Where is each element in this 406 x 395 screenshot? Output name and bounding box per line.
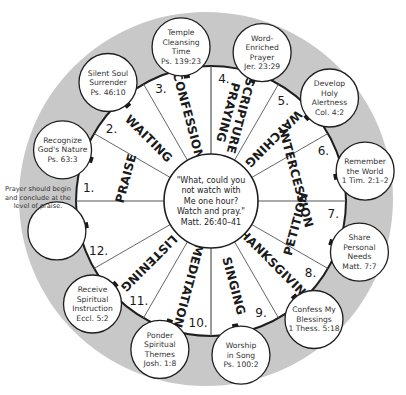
bubble-text: Enriched [245, 43, 279, 52]
bubble-10: PonderSpiritualThemesJosh. 1:8 [131, 320, 189, 378]
bubble-text: Share [348, 233, 370, 242]
bubble-text: in Song [227, 351, 256, 360]
center-quote-line: Matt. 26:40–41 [181, 218, 241, 227]
bubble-text: the World [347, 167, 384, 176]
segment-number: 10. [189, 316, 208, 330]
bubble-5: DevelopHolyAlertnessCol. 4:2 [300, 69, 358, 127]
segment-number: 4. [218, 72, 229, 86]
bubble-9: Worshipin SongPs. 100:2 [212, 326, 270, 384]
bubble-11: ReceiveSpiritualInstructionEccl. 5:2 [64, 275, 122, 333]
bubble-text: Alertness [312, 98, 348, 107]
bubble-text: Prayer [250, 53, 275, 62]
bubble-4: Word-EnrichedPrayerJer. 23:29 [233, 24, 291, 82]
bubble-2: Silent SoulSurrenderPs. 46:10 [79, 54, 137, 112]
bubble-text: Cleansing [162, 38, 199, 47]
segment-number: 1. [83, 181, 94, 195]
bubble-text: Personal [343, 243, 375, 252]
bubble-text: Ps. 139:23 [161, 57, 201, 66]
bubble-text: Josh. 1:8 [143, 359, 177, 368]
segment-number: 7. [328, 207, 339, 221]
bubble-text: Develop [314, 79, 345, 88]
bubble-text: Receive [78, 285, 108, 294]
bubble-text: Remember [344, 157, 387, 166]
center-quote-line: Watch and pray." [177, 207, 245, 216]
bubble-text: Instruction [72, 304, 113, 313]
segment-number: 6. [318, 144, 329, 158]
bubble-text: Blessings [296, 315, 332, 324]
bubble-1: RecognizeGod's NaturePs. 63:3 [34, 121, 92, 179]
bubble-text: Col. 4:2 [315, 108, 344, 117]
bubble-text: Surrender [89, 78, 128, 87]
bubble-text: Worship [226, 341, 257, 350]
bubble-text: Needs [348, 252, 372, 261]
bubble-text: Confess My [292, 305, 336, 314]
note-line: Prayer should begin [5, 185, 71, 193]
bubble-12 [28, 202, 86, 260]
bubble-7: SharePersonalNeedsMatt. 7:7 [330, 223, 388, 281]
segment-number: 9. [255, 306, 266, 320]
prayer-wheel-diagram: PRAISEWAITINGCONFESSIONSCRIPTUREPRAYINGW… [0, 0, 406, 395]
bubble-text: Spiritual [77, 295, 109, 304]
bubble-text: God's Nature [38, 145, 88, 154]
note-line: level of praise. [14, 202, 63, 210]
bubble-6: Rememberthe World1 Tim. 2:1–2 [336, 142, 394, 200]
bubble-text: Ps. 63:3 [47, 155, 77, 164]
note-line: and conclude at the [5, 194, 71, 202]
prayer-wheel: PRAISEWAITINGCONFESSIONSCRIPTUREPRAYINGW… [0, 0, 406, 395]
bubble-text: Word- [251, 34, 274, 43]
bubble-text: Matt. 7:7 [342, 262, 376, 271]
bubble-text: Spiritual [144, 340, 176, 349]
bubble-text: Themes [144, 350, 175, 359]
bubble-text: Temple [167, 28, 195, 37]
bubble-text: Ponder [147, 331, 174, 340]
segment-number: 5. [278, 94, 289, 108]
bubble-text: Jer. 23:29 [243, 62, 280, 71]
bubble-text: Silent Soul [88, 69, 128, 78]
bubble-text: Ps. 46:10 [90, 88, 125, 97]
segment-number: 12. [89, 244, 108, 258]
bubble-text: 1 Tim. 2:1–2 [342, 176, 389, 185]
bubble-text: Eccl. 5:2 [76, 314, 108, 323]
segment-number: 2. [106, 122, 117, 136]
bubble-8: Confess MyBlessings1 Thess. 5:18 [285, 290, 343, 348]
center-quote-line: Me one hour? [184, 197, 238, 206]
bubble-text: Ps. 100:2 [223, 360, 258, 369]
segment-number: 11. [129, 294, 148, 308]
center-quote-line: not watch with [181, 186, 240, 195]
bubble-circle [28, 202, 86, 260]
bubble-3: TempleCleansingTimePs. 139:23 [152, 18, 210, 76]
segment-number: 8. [305, 266, 316, 280]
bubble-text: Holy [321, 89, 338, 98]
center-quote: "What, could younot watch withMe one hou… [177, 176, 246, 227]
center-quote-line: "What, could you [177, 176, 246, 185]
bubble-text: Recognize [43, 136, 82, 145]
bubble-text: 1 Thess. 5:18 [288, 324, 339, 333]
praise-note: Prayer should beginand conclude at thele… [5, 185, 71, 210]
bubble-text: Time [171, 47, 191, 56]
segment-number: 3. [155, 82, 166, 96]
